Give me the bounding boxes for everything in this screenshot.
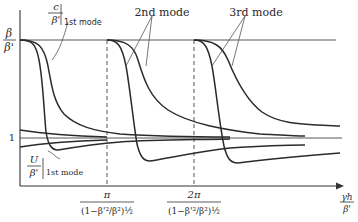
c-mode1-leader [52,22,68,60]
x-axis-denominator: β' [342,204,351,214]
c-mode-label: 1st mode [64,18,102,27]
c-denominator: β' [51,14,61,25]
curve-c-mode2 [107,40,305,136]
mode2-leader-a [126,16,152,66]
mode3-leader-b [232,16,245,66]
curve-u-mode3 [194,40,340,163]
tick2-denominator: (1−β'²/β²)½ [168,206,220,216]
tick1-numerator: π [103,189,111,200]
mode2-label: 2nd mode [134,6,189,19]
c-numerator: c [53,1,59,12]
tick2-numerator: 2π [187,189,201,200]
mode3-label: 3rd mode [229,6,282,19]
u-mode1-leader [48,151,60,159]
curve-c-mode3 [194,40,340,126]
y-axis-denominator: β' [3,41,13,54]
y-one-label: 1 [9,132,15,143]
x-axis-arrow-icon [336,183,344,190]
tick1-denominator: (1−β'²/β²)½ [81,206,133,216]
mode2-leader-b [146,16,152,66]
mode3-leader-a [212,16,245,66]
y-axis-numerator: β [5,27,12,40]
u-denominator: β' [29,167,39,178]
u-mode-label: 1st mode [46,168,83,177]
u-numerator: U [30,154,39,165]
dispersion-diagram: β β' 1 c β' 1st mode U β' 1st mode 2nd m… [0,0,358,222]
curve-c-mode1-tail [20,130,107,137]
x-axis-numerator: γh [341,192,352,202]
curve-u-mode1-tail [20,140,107,147]
